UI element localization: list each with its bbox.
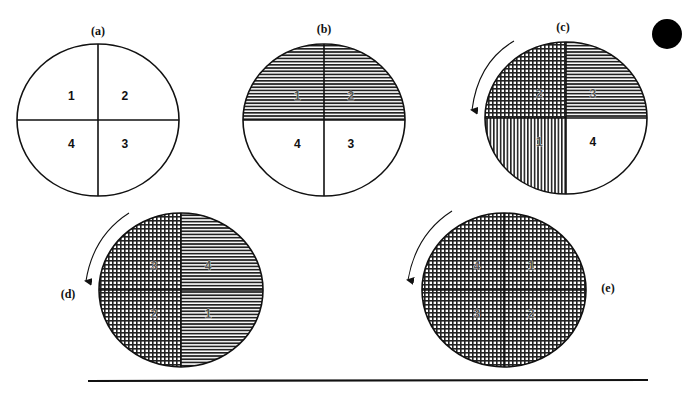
quadrant-number: 3 bbox=[474, 307, 481, 321]
quadrant-top-right bbox=[324, 44, 405, 120]
quadrant-bottom-right bbox=[566, 118, 647, 194]
quadrant-top-left bbox=[422, 213, 504, 290]
quadrant-number: 4 bbox=[68, 137, 75, 151]
bottom-rule bbox=[88, 380, 648, 381]
panel-label: (a) bbox=[91, 24, 105, 38]
quadrant-number: 1 bbox=[536, 135, 543, 149]
panel-b: 1234(b) bbox=[243, 22, 405, 196]
quadrant-top-right bbox=[98, 44, 179, 120]
panel-c: 2341(c) bbox=[472, 20, 647, 194]
quadrant-number: 3 bbox=[589, 87, 596, 101]
quadrant-bottom-right bbox=[504, 290, 586, 367]
quadrant-number: 1 bbox=[294, 89, 301, 103]
panel-label: (d) bbox=[61, 287, 76, 301]
quadrant-bottom-left bbox=[422, 290, 504, 367]
quadrant-number: 3 bbox=[347, 137, 354, 151]
panel-label: (b) bbox=[317, 22, 332, 36]
panel-label: (c) bbox=[556, 20, 569, 34]
quadrant-top-left bbox=[243, 44, 324, 120]
quadrant-top-right bbox=[181, 213, 263, 290]
quadrant-number: 1 bbox=[205, 307, 212, 321]
quadrant-number: 2 bbox=[121, 89, 128, 103]
quadrant-number: 4 bbox=[589, 135, 596, 149]
quadrant-bottom-left bbox=[243, 120, 324, 196]
quadrant-number: 2 bbox=[347, 89, 354, 103]
quadrant-bottom-left bbox=[485, 118, 566, 194]
panel-label: (e) bbox=[601, 281, 614, 295]
quadrant-bottom-left bbox=[17, 120, 98, 196]
quadrant-number: 1 bbox=[68, 89, 75, 103]
quadrant-top-left bbox=[99, 213, 181, 290]
quadrant-number: 1 bbox=[528, 259, 535, 273]
quadrant-number: 4 bbox=[205, 259, 212, 273]
panel-d: 3412(d) bbox=[61, 213, 263, 367]
quadrant-bottom-right bbox=[181, 290, 263, 367]
wafer-rotation-diagram: 1234(a)1234(b)2341(c)3412(d)4123(e) bbox=[0, 0, 687, 393]
quadrant-number: 2 bbox=[536, 87, 543, 101]
quadrant-number: 2 bbox=[151, 307, 158, 321]
filled-circle-marker bbox=[652, 19, 682, 49]
quadrant-bottom-right bbox=[98, 120, 179, 196]
quadrant-number: 3 bbox=[121, 137, 128, 151]
quadrant-top-left bbox=[17, 44, 98, 120]
quadrant-bottom-right bbox=[324, 120, 405, 196]
quadrant-top-right bbox=[504, 213, 586, 290]
quadrant-number: 4 bbox=[474, 259, 481, 273]
quadrant-number: 3 bbox=[151, 259, 158, 273]
quadrant-number: 4 bbox=[294, 137, 301, 151]
panel-a: 1234(a) bbox=[17, 24, 179, 196]
panel-e: 4123(e) bbox=[408, 211, 615, 367]
quadrant-bottom-left bbox=[99, 290, 181, 367]
quadrant-top-right bbox=[566, 42, 647, 118]
quadrant-number: 2 bbox=[528, 307, 535, 321]
